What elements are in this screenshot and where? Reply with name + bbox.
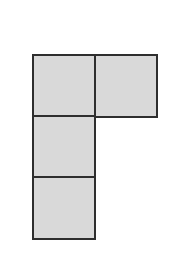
- square-cell-top-left: [32, 54, 96, 118]
- square-cell-top-right: [94, 54, 158, 118]
- square-cell-bottom-left: [32, 176, 96, 240]
- square-cell-middle-left: [32, 115, 96, 179]
